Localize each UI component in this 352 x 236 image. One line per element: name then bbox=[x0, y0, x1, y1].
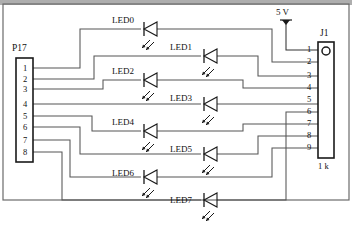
led-label-led5: LED5 bbox=[170, 145, 192, 154]
p17-pin-4: 4 bbox=[18, 100, 32, 109]
j1-pin-5: 5 bbox=[302, 95, 316, 104]
led-label-led7: LED7 bbox=[170, 196, 192, 205]
p17-pin-5: 5 bbox=[18, 112, 32, 121]
led-label-led0: LED0 bbox=[112, 16, 134, 25]
j1-pin-1: 1 bbox=[302, 45, 316, 54]
power-supply-label: 5 V bbox=[276, 8, 289, 17]
power-rail-arrow-icon bbox=[280, 20, 292, 25]
connector-j1-body[interactable] bbox=[318, 42, 334, 158]
led-label-led3: LED3 bbox=[170, 94, 192, 103]
j1-pin-3: 3 bbox=[302, 71, 316, 80]
j1-pin-8: 8 bbox=[302, 131, 316, 140]
led-label-led6: LED6 bbox=[112, 169, 134, 178]
wire-led4-j1-7 bbox=[157, 124, 318, 131]
connector-j1-key-hole-icon bbox=[322, 47, 330, 55]
led-symbol-led5[interactable] bbox=[202, 147, 217, 175]
led-symbol-led2[interactable] bbox=[142, 73, 157, 101]
wire-led2-j1-4 bbox=[157, 80, 318, 88]
led-label-led2: LED2 bbox=[112, 67, 134, 76]
p17-pin-6: 6 bbox=[18, 123, 32, 132]
led-label-led4: LED4 bbox=[112, 118, 134, 127]
schematic-canvas: P17 J1 1 k 5 V 1 2 3 4 5 6 7 8 1 2 3 4 5… bbox=[0, 0, 352, 236]
connector-j1-label: J1 bbox=[320, 29, 328, 39]
led-symbol-led3[interactable] bbox=[202, 97, 217, 125]
j1-pin-4: 4 bbox=[302, 83, 316, 92]
p17-pin-7: 7 bbox=[18, 136, 32, 145]
connector-j1-footer-label: 1 k bbox=[318, 162, 329, 171]
j1-pin-9: 9 bbox=[302, 143, 316, 152]
led-symbol-led1[interactable] bbox=[202, 49, 217, 77]
led-symbol-led6[interactable] bbox=[142, 170, 157, 198]
p17-pin-3: 3 bbox=[18, 85, 32, 94]
j1-pin-2: 2 bbox=[302, 57, 316, 66]
p17-pin-1: 1 bbox=[18, 64, 32, 73]
wire-p17-3-led2 bbox=[33, 80, 141, 89]
j1-pin-7: 7 bbox=[302, 119, 316, 128]
p17-pin-2: 2 bbox=[18, 75, 32, 84]
connector-p17-label: P17 bbox=[12, 44, 27, 54]
led-symbol-led0[interactable] bbox=[142, 22, 157, 50]
led-symbol-led4[interactable] bbox=[142, 124, 157, 152]
top-edge-band bbox=[0, 0, 352, 5]
led-symbol-led7[interactable] bbox=[202, 193, 217, 221]
p17-pin-8: 8 bbox=[18, 148, 32, 157]
led-label-led1: LED1 bbox=[170, 43, 192, 52]
j1-pin-6: 6 bbox=[302, 107, 316, 116]
wire-p17-1-led0 bbox=[33, 29, 141, 68]
